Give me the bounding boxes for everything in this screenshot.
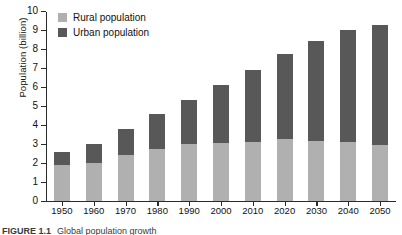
bar-segment — [340, 30, 356, 142]
bar-segment — [86, 144, 102, 163]
figure-caption: FIGURE 1.1Global population growth — [2, 226, 157, 235]
y-axis-line — [46, 12, 47, 202]
bar-segment — [340, 142, 356, 201]
y-axis-tick: 0 — [41, 201, 46, 202]
x-axis-tick-label: 2010 — [242, 206, 263, 216]
legend-item-rural: Rural population — [58, 10, 149, 25]
x-axis-tick-label: 1980 — [147, 206, 168, 216]
bar-segment — [118, 155, 134, 201]
plot-area: 012345678910 195019601970198019902000201… — [46, 12, 396, 202]
bar-segment — [308, 41, 324, 141]
y-axis-tick: 2 — [41, 163, 46, 164]
y-axis-tick: 6 — [41, 87, 46, 88]
y-axis-tick-label: 3 — [32, 139, 38, 149]
y-axis-title: Population (billion) — [17, 0, 28, 128]
bar-segment — [149, 149, 165, 201]
x-axis-tick-label: 2050 — [370, 206, 391, 216]
bar-segment — [54, 165, 70, 201]
bar-segment — [277, 54, 293, 140]
chart-legend: Rural population Urban population — [58, 10, 149, 40]
legend-swatch-urban-icon — [58, 28, 67, 37]
bar-stack — [308, 41, 324, 201]
legend-swatch-rural-icon — [58, 13, 67, 22]
bar-segment — [86, 163, 102, 201]
bar-stack — [181, 100, 197, 201]
x-axis-tick-label: 2000 — [210, 206, 231, 216]
bar-segment — [277, 139, 293, 201]
bar-segment — [245, 70, 261, 142]
figure-caption-text: Global population growth — [57, 226, 157, 235]
y-axis-tick: 5 — [41, 106, 46, 107]
bar-segment — [308, 141, 324, 201]
y-axis-tick: 9 — [41, 30, 46, 31]
bar-segment — [372, 145, 388, 201]
bar-stack — [372, 25, 388, 201]
bar-segment — [181, 100, 197, 144]
bar-segment — [213, 85, 229, 143]
figure-caption-label: FIGURE 1.1 — [2, 226, 51, 235]
y-axis-tick-label: 5 — [32, 101, 38, 111]
y-axis-tick: 1 — [41, 182, 46, 183]
legend-label-urban: Urban population — [73, 28, 149, 38]
y-axis-tick-label: 9 — [32, 25, 38, 35]
bar-stack — [86, 144, 102, 201]
x-axis-tick-label: 1990 — [179, 206, 200, 216]
bar-segment — [372, 25, 388, 145]
y-axis-tick: 4 — [41, 125, 46, 126]
y-axis-tick-label: 6 — [32, 82, 38, 92]
x-axis-tick-label: 2030 — [306, 206, 327, 216]
bar-stack — [149, 114, 165, 201]
y-axis-tick-label: 4 — [32, 120, 38, 130]
x-axis-tick-label: 1960 — [83, 206, 104, 216]
bar-stack — [213, 85, 229, 201]
x-axis-tick-label: 2020 — [274, 206, 295, 216]
y-axis-tick-label: 2 — [32, 158, 38, 168]
bar-segment — [245, 142, 261, 201]
bar-stack — [277, 54, 293, 201]
y-axis-tick: 3 — [41, 144, 46, 145]
bar-segment — [213, 143, 229, 201]
bar-segment — [149, 114, 165, 149]
y-axis-tick-label: 0 — [32, 196, 38, 206]
bar-stack — [340, 30, 356, 201]
y-axis-tick-label: 1 — [32, 177, 38, 187]
legend-label-rural: Rural population — [73, 13, 146, 23]
bar-segment — [118, 129, 134, 156]
bar-segment — [54, 152, 70, 165]
y-axis-tick-label: 8 — [32, 44, 38, 54]
figure-stacked-bar-chart: Population (billion) 012345678910 195019… — [0, 0, 402, 235]
y-axis-tick: 8 — [41, 49, 46, 50]
x-axis-tick-label: 1970 — [115, 206, 136, 216]
bar-stack — [245, 70, 261, 201]
y-axis-tick: 10 — [41, 11, 46, 12]
x-axis-tick-label: 2040 — [338, 206, 359, 216]
y-axis-tick: 7 — [41, 68, 46, 69]
bar-segment — [181, 144, 197, 201]
bar-stack — [118, 129, 134, 201]
bar-stack — [54, 152, 70, 201]
y-axis-tick-label: 7 — [32, 63, 38, 73]
y-axis-tick-label: 10 — [27, 6, 38, 16]
legend-item-urban: Urban population — [58, 25, 149, 40]
x-axis-tick-label: 1950 — [51, 206, 72, 216]
